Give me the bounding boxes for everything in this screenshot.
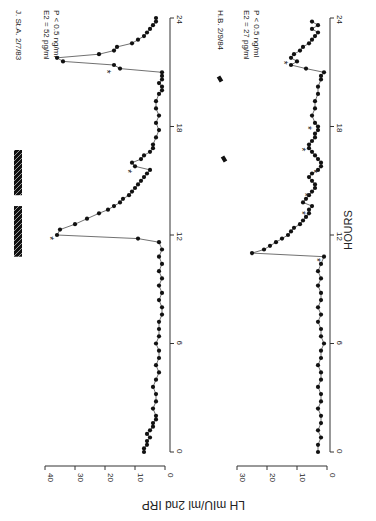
data-point [154, 378, 158, 382]
hour-tick-label: 6 [175, 341, 184, 346]
data-point [151, 146, 155, 150]
annotation-progesterone: P < 0.5 ng/ml [52, 10, 61, 57]
data-point [316, 85, 320, 89]
data-point [118, 67, 122, 71]
data-point [157, 114, 161, 118]
data-point [130, 41, 134, 45]
data-point [136, 38, 140, 42]
lh-pulse-figure: 06121824010203040***J. St.A. 2/7/83E2 = … [0, 0, 376, 521]
hour-tick-label: 0 [335, 449, 344, 454]
data-point [154, 135, 158, 139]
data-point [106, 208, 110, 212]
data-point [319, 356, 323, 360]
pulse-asterisk: * [299, 193, 310, 197]
data-point [319, 421, 323, 425]
data-point [310, 139, 314, 143]
data-point [85, 217, 89, 221]
data-point [280, 237, 284, 241]
data-point [313, 153, 317, 157]
data-point [301, 218, 305, 222]
data-point [151, 425, 155, 429]
lh-tick-label: 10 [136, 473, 145, 482]
data-point [157, 255, 161, 259]
data-point [142, 450, 146, 454]
data-point [322, 70, 326, 74]
data-point [160, 74, 164, 78]
lh-tick-label: 20 [268, 473, 277, 482]
panel-title: H.B. 2/9/84 [216, 10, 225, 51]
data-point [133, 186, 137, 190]
data-point [154, 414, 158, 418]
lh-tick-label: 0 [328, 473, 337, 478]
lh-tick-label: 0 [166, 473, 175, 478]
data-point [121, 197, 125, 201]
data-point [310, 114, 314, 118]
data-point [133, 164, 137, 168]
data-point [274, 240, 278, 244]
data-point [157, 334, 161, 338]
data-point [298, 222, 302, 226]
data-point [160, 70, 164, 74]
pulse-asterisk: * [101, 70, 112, 74]
hour-tick-label: 6 [335, 341, 344, 346]
data-point [160, 276, 164, 280]
pulse-asterisk: * [296, 148, 307, 152]
pulse-asterisk: * [278, 61, 289, 65]
data-point [145, 30, 149, 34]
data-point [316, 128, 320, 132]
data-point [313, 121, 317, 125]
data-point [304, 197, 308, 201]
data-point [316, 30, 320, 34]
data-point [157, 327, 161, 331]
data-point [148, 150, 152, 154]
data-point [310, 150, 314, 154]
annotation-progesterone: P < 0.5 ng/ml [252, 10, 261, 57]
data-point [130, 190, 134, 194]
data-point [112, 204, 116, 208]
data-point [160, 305, 164, 309]
data-point [316, 124, 320, 128]
data-point [319, 74, 323, 78]
data-point [316, 269, 320, 273]
data-point [319, 370, 323, 374]
data-point [301, 45, 305, 49]
data-point [313, 186, 317, 190]
data-point [154, 99, 158, 103]
data-point [151, 143, 155, 147]
x-axis-label: HOURS [342, 210, 354, 250]
data-point [289, 229, 293, 233]
y-axis-label: LH mIU/ml 2nd IRP [142, 498, 245, 512]
data-point [289, 56, 293, 60]
data-point [319, 435, 323, 439]
hour-tick-label: 24 [335, 15, 344, 24]
data-point [136, 182, 140, 186]
data-point [160, 85, 164, 89]
data-point [250, 251, 254, 255]
data-point [316, 428, 320, 432]
data-point [145, 439, 149, 443]
data-point [73, 222, 77, 226]
data-point [319, 161, 323, 165]
hour-tick-label: 24 [175, 15, 184, 24]
data-point [157, 298, 161, 302]
hour-tick-label: 12 [175, 232, 184, 241]
data-point [157, 269, 161, 273]
data-point [313, 135, 317, 139]
data-point [307, 41, 311, 45]
data-point [313, 132, 317, 136]
data-point [268, 244, 272, 248]
data-point [304, 215, 308, 219]
annotation-e2: E2 = 27 pg/ml [242, 10, 251, 60]
data-point [262, 247, 266, 251]
data-point [151, 421, 155, 425]
hour-tick-label: 0 [175, 449, 184, 454]
data-point [61, 59, 65, 63]
data-point [310, 204, 314, 208]
data-point [160, 291, 164, 295]
data-point [148, 27, 152, 31]
hatched-bar [14, 150, 22, 195]
data-point [112, 49, 116, 53]
data-point [157, 370, 161, 374]
data-point [319, 77, 323, 81]
data-point [157, 349, 161, 353]
